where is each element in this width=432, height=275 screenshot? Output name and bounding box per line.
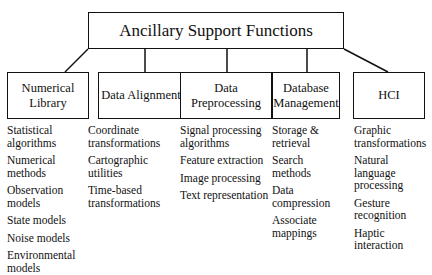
node-label: HCI [378,88,400,103]
list-data-alignment: Coordinate transformations Cartographic … [88,124,178,214]
list-item: Coordinate transformations [88,124,178,149]
list-item: Feature extraction [180,154,274,167]
connector-hci [344,49,388,72]
list-item: Gesture recognition [354,197,430,222]
list-item: Signal processing algorithms [180,124,274,149]
list-item: Statistical algorithms [7,124,87,149]
node-label: Numerical Library [8,81,88,111]
list-item: Time-based transformations [88,184,178,209]
node-database-management: Database Management [272,72,340,119]
list-item: Associate mappings [272,214,344,239]
list-item: Graphic transformations [354,124,430,149]
node-label: Database Management [273,81,339,111]
list-item: Natural language processing [354,154,430,192]
list-item: Data compression [272,184,344,209]
list-item: Observation models [7,184,87,209]
node-label: Data Alignment [101,88,181,103]
root-node-label: Ancillary Support Functions [119,21,313,41]
list-item: Storage & retrieval [272,124,344,149]
node-numerical-library: Numerical Library [7,72,89,119]
node-hci: HCI [353,72,425,119]
list-item: Haptic interaction [354,227,430,252]
list-item: Environmental models [7,249,87,274]
list-hci: Graphic transformations Natural language… [354,124,430,257]
node-data-alignment: Data Alignment [98,72,184,119]
list-item: Cartographic utilities [88,154,178,179]
list-item: Search methods [272,154,344,179]
list-item: Image processing [180,172,274,185]
node-label: Data Preprocessing [181,81,271,111]
list-item: State models [7,214,87,227]
list-database-management: Storage & retrieval Search methods Data … [272,124,344,244]
connector-numerical-library [65,49,88,72]
list-item: Text representation [180,189,274,202]
root-node: Ancillary Support Functions [88,12,344,49]
list-item: Noise models [7,232,87,245]
list-numerical-library: Statistical algorithms Numerical methods… [7,124,87,275]
list-data-preprocessing: Signal processing algorithms Feature ext… [180,124,274,207]
list-item: Numerical methods [7,154,87,179]
node-data-preprocessing: Data Preprocessing [180,72,272,119]
